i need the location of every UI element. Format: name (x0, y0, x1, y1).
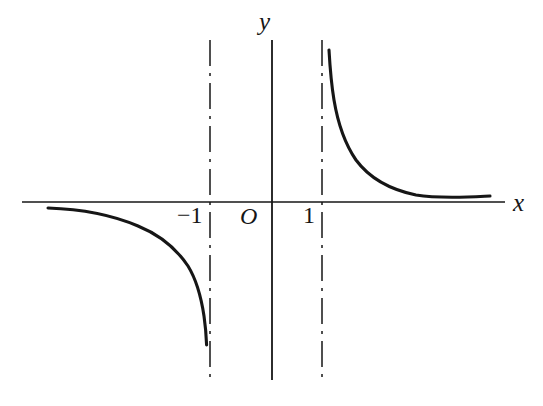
graph-figure: y x O −1 1 (0, 0, 543, 406)
origin-label: O (240, 203, 257, 230)
tick-label-neg-one: −1 (177, 202, 203, 229)
tick-label-one: 1 (303, 202, 315, 229)
coordinate-plot (0, 0, 543, 406)
curve-right-branch (329, 50, 490, 197)
x-axis-label: x (513, 189, 524, 217)
y-axis-label: y (259, 8, 270, 36)
